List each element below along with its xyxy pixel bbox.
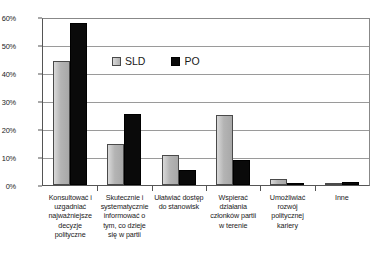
x-label-5: Inne — [315, 193, 369, 239]
y-tick-label-0: 0% — [6, 182, 16, 191]
x-tick-1 — [97, 186, 98, 191]
legend-entry-po: PO — [171, 55, 199, 67]
bar-group-0 — [43, 19, 97, 185]
y-tick-label-50: 50% — [2, 42, 16, 51]
legend-swatch-sld-icon — [112, 57, 121, 66]
x-label-1: Skutecznie i systematycznie informować o… — [97, 193, 151, 239]
y-tick-label-40: 40% — [2, 70, 16, 79]
x-label-0: Konsultować i uzgadniać najważniejsze de… — [43, 193, 97, 239]
x-label-4: Umożliwiać rozwój politycznej kariery — [260, 193, 314, 239]
y-tick-label-60: 60% — [2, 14, 16, 23]
x-tick-3 — [206, 186, 207, 191]
bar-po-5 — [342, 182, 359, 185]
bar-group-3 — [206, 19, 260, 185]
bar-chart: 0% 10% 20% 30% 40% 50% 60% — [0, 0, 390, 273]
x-label-3: Wspierać działania członków partii w ter… — [206, 193, 260, 239]
x-axis-labels: Konsultować i uzgadniać najważniejsze de… — [43, 193, 369, 239]
bar-sld-2 — [162, 155, 179, 185]
y-tick-label-20: 20% — [2, 126, 16, 135]
bar-group-4 — [260, 19, 314, 185]
legend-label-sld: SLD — [125, 55, 145, 67]
bar-sld-1 — [107, 144, 124, 186]
y-tick-label-10: 10% — [2, 154, 16, 163]
x-tick-4 — [260, 186, 261, 191]
x-tick-2 — [152, 186, 153, 191]
bar-po-3 — [233, 160, 250, 185]
bar-group-1 — [97, 19, 151, 185]
bar-group-2 — [152, 19, 206, 185]
legend-swatch-po-icon — [171, 57, 180, 66]
x-label-2: Ułatwiać dostęp do stanowisk — [152, 193, 206, 239]
bar-po-2 — [179, 170, 196, 185]
legend-entry-sld: SLD — [112, 55, 145, 67]
bar-sld-4 — [270, 179, 287, 185]
bar-sld-3 — [216, 115, 233, 185]
bar-po-4 — [287, 183, 304, 185]
x-tick-5 — [315, 186, 316, 191]
bar-group-5 — [315, 19, 369, 185]
bar-sld-0 — [53, 61, 70, 186]
bars-layer — [43, 19, 369, 185]
bar-sld-5 — [325, 183, 342, 185]
bar-po-0 — [70, 23, 87, 185]
bar-po-1 — [124, 114, 141, 185]
chart-legend: SLD PO — [112, 55, 200, 67]
legend-label-po: PO — [184, 55, 199, 67]
y-tick-label-30: 30% — [2, 98, 16, 107]
